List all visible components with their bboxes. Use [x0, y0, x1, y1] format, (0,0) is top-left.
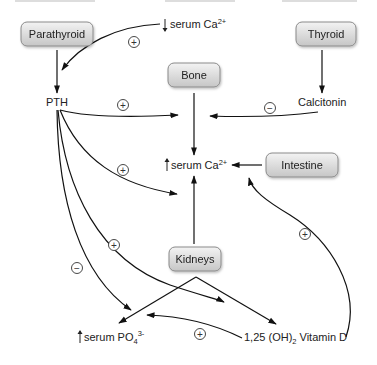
- svg-text:serum PO43-: serum PO43-: [84, 329, 145, 346]
- cutoff-text-center: [165, 0, 235, 2]
- parathyroid-label: Parathyroid: [29, 28, 85, 40]
- plus-icon: +: [131, 37, 137, 48]
- calcium-regulation-diagram: Parathyroid Thyroid Bone Intestine Kidne…: [0, 0, 377, 365]
- plus-icon: +: [197, 329, 203, 340]
- edge-pth-to-serum-po4: [57, 110, 131, 310]
- calcitonin-label: Calcitonin: [298, 96, 346, 108]
- high-serum-ca-sup: 2+: [219, 158, 228, 167]
- pth-label: PTH: [46, 96, 68, 108]
- edge-vitamin-d-to-intestine: [249, 178, 350, 337]
- low-serum-ca-sup: 2+: [218, 17, 227, 26]
- edge-pth-to-bone: [60, 110, 178, 116]
- sign-plus-low-ca-pth: +: [129, 37, 140, 48]
- sign-minus-calcitonin-bone: −: [265, 103, 276, 114]
- low-serum-ca-text: serum Ca: [170, 18, 219, 30]
- high-serum-ca-text: serum Ca: [171, 159, 220, 171]
- plus-icon: +: [302, 229, 308, 240]
- label-high-serum-po4: serum PO43-: [78, 329, 145, 346]
- edge-kidneys-to-vitamin-d: [196, 277, 276, 324]
- vitamin-d-post: Vitamin D: [296, 331, 347, 343]
- label-high-serum-ca: serum Ca2+: [165, 158, 228, 171]
- minus-icon: −: [74, 263, 80, 274]
- serum-po4-sup: 3-: [138, 329, 145, 338]
- node-parathyroid: Parathyroid: [21, 22, 93, 46]
- minus-icon: −: [267, 103, 273, 114]
- serum-po4-sub: 4: [134, 337, 138, 346]
- edge-pth-to-vitamin-d-production: [58, 110, 224, 302]
- svg-text:serum Ca2+: serum Ca2+: [170, 17, 227, 30]
- node-bone: Bone: [168, 63, 220, 87]
- sign-plus-pth-vitamin-d: +: [109, 240, 120, 251]
- intestine-label: Intestine: [281, 159, 323, 171]
- sign-plus-vitamin-d-po4: +: [195, 329, 206, 340]
- thyroid-label: Thyroid: [308, 28, 345, 40]
- cutoff-text-right: [282, 0, 357, 2]
- plus-icon: +: [120, 100, 126, 111]
- cutoff-text-left: [15, 0, 95, 2]
- sign-plus-pth-serum-ca: +: [118, 165, 129, 176]
- svg-text:serum Ca2+: serum Ca2+: [171, 158, 228, 171]
- vitamin-d-label: 1,25 (OH)2 Vitamin D: [244, 331, 347, 346]
- down-arrow-head-icon: [163, 28, 168, 32]
- vitamin-d-pre: 1,25 (OH): [244, 331, 292, 343]
- node-kidneys: Kidneys: [169, 247, 221, 271]
- node-thyroid: Thyroid: [296, 22, 356, 46]
- sign-plus-vitamin-d-intestine: +: [300, 229, 311, 240]
- edge-calcitonin-to-bone: [210, 112, 318, 117]
- plus-icon: +: [111, 240, 117, 251]
- label-low-serum-ca: serum Ca2+: [163, 17, 227, 32]
- edge-pth-to-serum-ca: [60, 110, 177, 194]
- sign-minus-pth-po4: −: [72, 263, 83, 274]
- node-intestine: Intestine: [266, 153, 338, 177]
- up-arrow-head-icon: [165, 158, 170, 162]
- sign-plus-pth-bone: +: [118, 100, 129, 111]
- plus-icon: +: [120, 165, 126, 176]
- kidneys-label: Kidneys: [175, 253, 215, 265]
- bone-label: Bone: [181, 69, 207, 81]
- serum-po4-text: serum PO: [84, 331, 134, 343]
- up-arrow-head-icon: [78, 330, 83, 334]
